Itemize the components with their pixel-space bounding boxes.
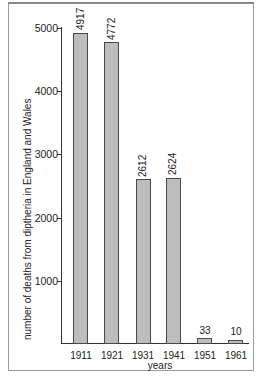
y-axis-line [61,27,62,344]
y-tick-label: 2000 [35,212,58,224]
y-tick-label: 5000 [35,22,58,34]
bar-value-label: 4772 [106,18,117,40]
bar-1921 [104,42,119,344]
x-tick-label: 1921 [97,350,127,361]
chart-frame [8,2,254,371]
bar-1911 [73,33,88,344]
y-axis-title: number of deaths from diptheria in Engla… [22,99,33,340]
bar-1941 [166,178,181,344]
x-tick-label: 1961 [221,350,251,361]
bar-value-label: 33 [190,325,220,336]
x-axis-title: years [140,360,180,371]
bar-value-label: 4917 [75,8,86,30]
x-axis-line [61,343,249,344]
bar-value-label: 10 [221,326,251,337]
bar-1961 [228,340,243,344]
bar-value-label: 2624 [167,153,178,175]
y-tick-label: 4000 [35,85,58,97]
y-tick-label: 3000 [35,148,58,160]
x-tick-label: 1951 [190,350,220,361]
bar-value-label: 2612 [137,155,148,177]
bar-1931 [136,179,151,344]
x-tick-label: 1911 [66,350,96,361]
y-tick-label: 1000 [35,275,58,287]
bar-1951 [197,338,212,344]
